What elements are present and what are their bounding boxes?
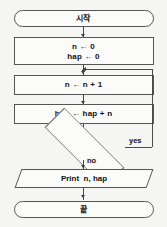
edge-yes-segment-back [83,69,152,70]
node-end-label: 끝 [0,205,167,215]
edge-no-arrow [81,165,85,168]
node-start-label: 시작 [0,14,167,24]
node-incr-label: n ← n + 1 [0,80,167,90]
node-init-label-line2: hap ← 0 [0,52,167,62]
flowchart-canvas: 시작 n ← 0 hap ← 0 n ← n + 1 hap ← hap + n… [0,0,167,227]
edge-label-yes: yes [128,137,143,145]
node-init-label-line1: n ← 0 [0,42,167,52]
edge-merge-to-incr-arrow [81,71,85,74]
edge-yes-segment-up [152,69,153,147]
edge-label-no: no [86,157,97,165]
node-print-label: Print n, hap [18,169,150,188]
edge-yes-arrowhead [83,67,86,71]
edge-print-to-end-arrow [81,195,85,198]
edge-print-to-end-line [83,188,84,200]
node-accum-label: hap ← hap + n [0,109,167,119]
edge-yes-segment-right [125,147,152,148]
